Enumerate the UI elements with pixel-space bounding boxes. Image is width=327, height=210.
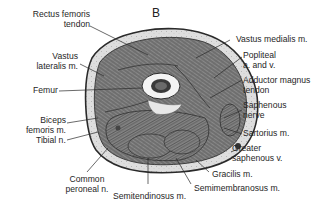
- panel-label: B: [152, 6, 160, 20]
- label-semitendinosus: Semitendinosus m.: [113, 192, 186, 202]
- label-adductor-magnus-tendon: Adductor magnus tendon: [243, 76, 310, 95]
- label-gracilis: Gracilis m.: [212, 170, 253, 180]
- label-femur: Femur: [33, 86, 58, 96]
- label-vastus-lateralis: Vastus lateralis m.: [6, 52, 78, 71]
- anatomy-figure: B Rectus femoris tendon Vastus lateralis…: [0, 0, 327, 210]
- label-saphenous-nerve: Saphenous nerve: [243, 101, 287, 120]
- label-greater-saphenous-vein: Greater saphenous v.: [232, 144, 282, 163]
- label-biceps-femoris: Biceps femoris m.: [6, 116, 66, 135]
- label-popliteal-artery-vein: Popliteal a. and v.: [243, 51, 276, 70]
- label-tibial-nerve: Tibial n.: [36, 136, 66, 146]
- label-semimembranosus: Semimembranosus m.: [194, 184, 280, 194]
- label-sartorius: Sartorius m.: [243, 129, 289, 139]
- label-vastus-medialis: Vastus medialis m.: [236, 35, 307, 45]
- label-common-peroneal-nerve: Common peroneal n.: [60, 175, 114, 194]
- label-rectus-femoris-tendon: Rectus femoris tendon: [6, 10, 90, 29]
